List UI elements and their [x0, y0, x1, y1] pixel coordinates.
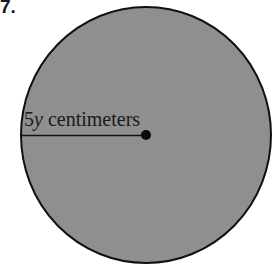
radius-variable: y: [34, 108, 43, 130]
radius-label: 5y centimeters: [24, 108, 140, 131]
circle-diagram: [0, 0, 275, 267]
radius-coefficient: 5: [24, 108, 34, 130]
radius-unit: centimeters: [43, 108, 140, 130]
center-point: [141, 130, 151, 140]
